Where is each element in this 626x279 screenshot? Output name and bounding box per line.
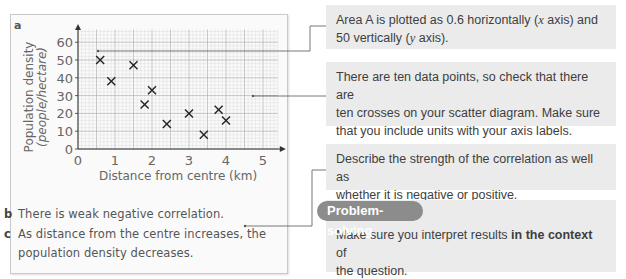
note-ten-data-points: There are ten data points, so check that… <box>326 62 616 126</box>
note-correlation-strength: Describe the strength of the correlation… <box>326 144 616 190</box>
problem-solving-badge: Problem-solving <box>317 201 423 221</box>
note-plotting-area-a: Area A is plotted as 0.6 horizontally (x… <box>326 5 616 49</box>
